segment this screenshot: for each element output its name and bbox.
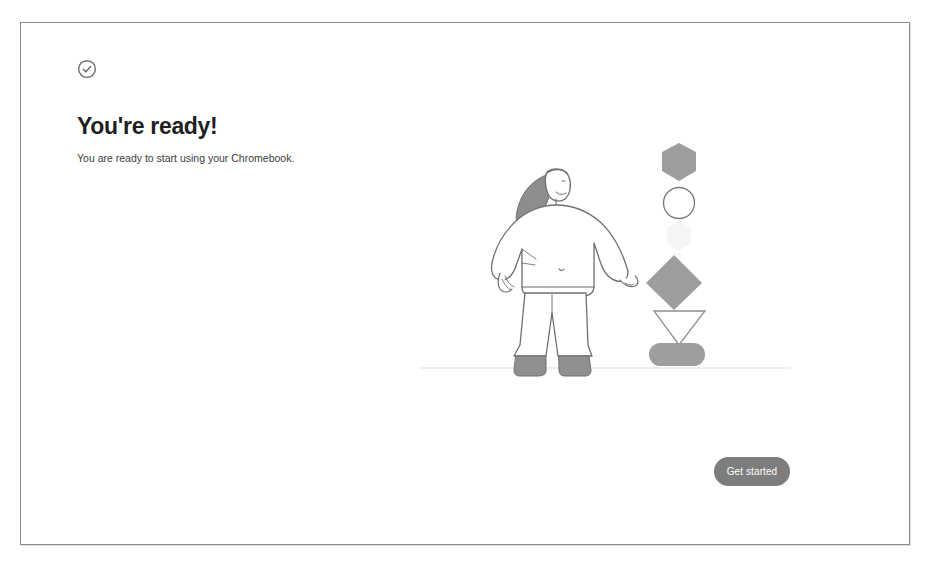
hexagon-shape [662, 143, 696, 181]
left-boot [514, 356, 546, 376]
head-shape [545, 169, 570, 201]
triangle-shape [654, 311, 705, 345]
page-subtitle: You are ready to start using your Chrome… [77, 151, 294, 165]
content-column: You're ready! You are ready to start usi… [77, 59, 407, 79]
person-with-shapes-illustration [396, 113, 816, 388]
device-screen-frame: You're ready! You are ready to start usi… [20, 22, 910, 545]
circle-shape [664, 188, 695, 219]
check-circle-icon [77, 59, 407, 79]
shape-stack [646, 143, 705, 366]
rounded-rectangle-shape [649, 343, 705, 366]
standing-person-figure [491, 169, 638, 376]
ghost-shape [667, 221, 691, 265]
diamond-shape [646, 255, 702, 310]
trousers-shape [514, 293, 592, 356]
footer-actions: Get started [21, 457, 909, 497]
get-started-button[interactable]: Get started [714, 457, 790, 486]
torso-shape [491, 205, 627, 296]
page-title: You're ready! [77, 112, 217, 140]
right-boot [559, 356, 591, 376]
